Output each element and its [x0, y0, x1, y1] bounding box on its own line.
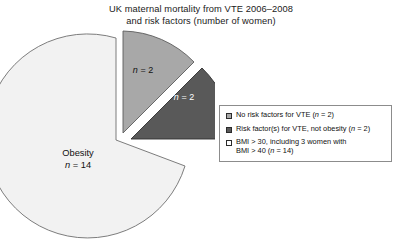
slice-label-risk-factors-not-obesity: n = 2	[174, 92, 194, 102]
legend-label-risk-factors-not-obesity: Risk factor(s) for VTE, not obesity (n =…	[236, 125, 370, 134]
slice-label-obesity-value: n = 14	[65, 160, 91, 170]
legend-item-obesity[interactable]: BMI > 30, including 3 women with BMI > 4…	[225, 138, 386, 155]
legend-swatch-obesity	[226, 140, 232, 146]
chart-legend: No risk factors for VTE (n = 2) Risk fac…	[219, 105, 392, 162]
slice-label-value-2: = 2	[179, 92, 194, 102]
slice-label-value-3: = 14	[70, 160, 91, 170]
legend-swatch-risk-factors-not-obesity	[226, 127, 232, 133]
pie-svg: n = 2 n = 2 Obesity n = 14	[0, 22, 215, 250]
slice-label-value: = 2	[138, 65, 153, 75]
pie-plot-area: n = 2 n = 2 Obesity n = 14	[0, 22, 215, 250]
legend-swatch-no-risk-factors	[226, 113, 232, 119]
chart-title-line-1: UK maternal mortality from VTE 2006–2008	[0, 4, 402, 16]
legend-item-no-risk-factors[interactable]: No risk factors for VTE (n = 2)	[225, 111, 386, 120]
pie-chart-figure: UK maternal mortality from VTE 2006–2008…	[0, 0, 402, 250]
legend-label-obesity: BMI > 30, including 3 women with BMI > 4…	[236, 138, 346, 155]
slice-label-no-risk-factors: n = 2	[133, 65, 153, 75]
slice-label-obesity-title: Obesity	[62, 148, 94, 158]
legend-item-risk-factors-not-obesity[interactable]: Risk factor(s) for VTE, not obesity (n =…	[225, 125, 386, 134]
legend-label-no-risk-factors: No risk factors for VTE (n = 2)	[236, 111, 334, 120]
